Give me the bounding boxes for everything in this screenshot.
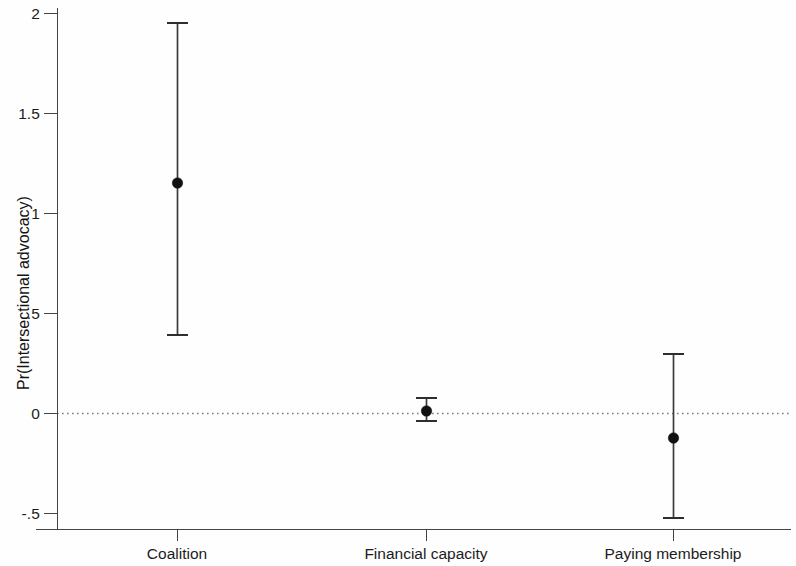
- y-tick-label-1-5: 1.5: [8, 106, 40, 122]
- x-tick-label-coalition: Coalition: [77, 546, 277, 562]
- errorbar-financial-capacity: [416, 398, 437, 421]
- coefficient-plot: [0, 0, 796, 566]
- y-tick-label-2: 2: [8, 6, 40, 22]
- errorbar-coalition: [167, 23, 188, 335]
- point-marker-financial-capacity: [421, 406, 431, 416]
- point-marker-coalition: [172, 178, 182, 188]
- y-tick-label-neg-0-5: -.5: [8, 506, 40, 522]
- chart-figure: 2 1.5 1 .5 0 -.5 Pr(Intersectional advoc…: [0, 0, 796, 566]
- y-axis-label: Pr(Intersectional advocacy): [16, 196, 32, 390]
- x-tick-label-paying-membership: Paying membership: [573, 546, 773, 562]
- errorbar-paying-membership: [663, 354, 684, 518]
- point-marker-paying-membership: [668, 433, 678, 443]
- y-tick-label-0: 0: [8, 406, 40, 422]
- x-tick-label-financial-capacity: Financial capacity: [326, 546, 526, 562]
